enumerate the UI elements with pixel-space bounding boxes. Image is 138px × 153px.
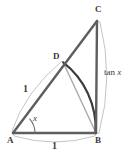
angle-label-x: x — [33, 114, 37, 123]
tan-variable: x — [117, 67, 121, 77]
tan-prefix: tan — [104, 67, 117, 77]
brace-ad-arc — [12, 61, 62, 131]
brace-cb-arc — [99, 22, 107, 133]
point-label-d: D — [53, 52, 60, 61]
length-label-ad: 1 — [23, 84, 28, 94]
point-label-b: B — [95, 136, 101, 145]
segment-db — [63, 62, 96, 133]
segment-ac — [13, 21, 97, 133]
length-label-ab: 1 — [52, 141, 57, 151]
length-label-bc: tan x — [104, 68, 121, 77]
segment-bc — [96, 21, 97, 133]
point-label-a: A — [7, 136, 14, 145]
point-label-c: C — [95, 5, 102, 14]
geometry-figure: A B C D 1 1 x tan x — [0, 0, 138, 153]
